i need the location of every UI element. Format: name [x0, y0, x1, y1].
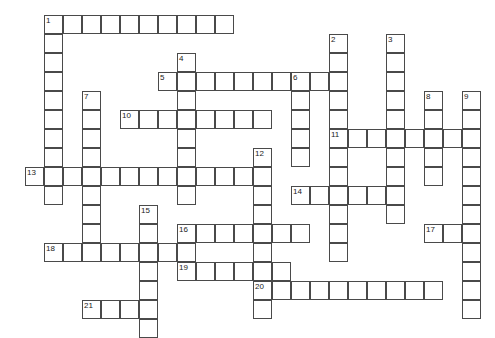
crossword-cell[interactable] — [234, 224, 253, 243]
crossword-cell[interactable] — [44, 148, 63, 167]
crossword-cell[interactable] — [329, 186, 348, 205]
crossword-cell[interactable] — [158, 110, 177, 129]
crossword-cell[interactable] — [82, 205, 101, 224]
crossword-cell[interactable] — [386, 34, 405, 53]
crossword-cell[interactable] — [215, 15, 234, 34]
crossword-cell[interactable] — [462, 148, 481, 167]
crossword-cell[interactable] — [424, 167, 443, 186]
crossword-cell[interactable] — [44, 167, 63, 186]
crossword-cell[interactable] — [120, 167, 139, 186]
crossword-cell[interactable] — [443, 224, 462, 243]
crossword-cell[interactable] — [386, 281, 405, 300]
crossword-cell[interactable] — [424, 148, 443, 167]
crossword-cell[interactable] — [291, 91, 310, 110]
crossword-cell[interactable] — [253, 281, 272, 300]
crossword-cell[interactable] — [234, 167, 253, 186]
crossword-cell[interactable] — [44, 186, 63, 205]
crossword-cell[interactable] — [82, 186, 101, 205]
crossword-cell[interactable] — [253, 224, 272, 243]
crossword-cell[interactable] — [462, 205, 481, 224]
crossword-cell[interactable] — [177, 262, 196, 281]
crossword-cell[interactable] — [424, 129, 443, 148]
crossword-cell[interactable] — [177, 15, 196, 34]
crossword-cell[interactable] — [462, 129, 481, 148]
crossword-cell[interactable] — [44, 243, 63, 262]
crossword-cell[interactable] — [215, 110, 234, 129]
crossword-cell[interactable] — [44, 72, 63, 91]
crossword-cell[interactable] — [234, 262, 253, 281]
crossword-cell[interactable] — [253, 186, 272, 205]
crossword-cell[interactable] — [386, 91, 405, 110]
crossword-cell[interactable] — [386, 72, 405, 91]
crossword-cell[interactable] — [462, 224, 481, 243]
crossword-cell[interactable] — [291, 72, 310, 91]
crossword-cell[interactable] — [177, 186, 196, 205]
crossword-cell[interactable] — [158, 243, 177, 262]
crossword-cell[interactable] — [44, 129, 63, 148]
crossword-cell[interactable] — [310, 281, 329, 300]
crossword-cell[interactable] — [329, 53, 348, 72]
crossword-cell[interactable] — [158, 167, 177, 186]
crossword-cell[interactable] — [120, 300, 139, 319]
crossword-cell[interactable] — [101, 243, 120, 262]
crossword-cell[interactable] — [139, 205, 158, 224]
crossword-cell[interactable] — [272, 72, 291, 91]
crossword-cell[interactable] — [196, 224, 215, 243]
crossword-cell[interactable] — [462, 186, 481, 205]
crossword-cell[interactable] — [101, 15, 120, 34]
crossword-cell[interactable] — [215, 167, 234, 186]
crossword-cell[interactable] — [253, 262, 272, 281]
crossword-cell[interactable] — [82, 300, 101, 319]
crossword-cell[interactable] — [196, 15, 215, 34]
crossword-cell[interactable] — [329, 224, 348, 243]
crossword-cell[interactable] — [405, 281, 424, 300]
crossword-cell[interactable] — [424, 281, 443, 300]
crossword-cell[interactable] — [44, 15, 63, 34]
crossword-cell[interactable] — [424, 224, 443, 243]
crossword-cell[interactable] — [82, 243, 101, 262]
crossword-cell[interactable] — [443, 129, 462, 148]
crossword-cell[interactable] — [158, 15, 177, 34]
crossword-cell[interactable] — [386, 186, 405, 205]
crossword-cell[interactable] — [63, 243, 82, 262]
crossword-cell[interactable] — [139, 15, 158, 34]
crossword-cell[interactable] — [253, 167, 272, 186]
crossword-cell[interactable] — [272, 262, 291, 281]
crossword-cell[interactable] — [424, 91, 443, 110]
crossword-cell[interactable] — [253, 300, 272, 319]
crossword-cell[interactable] — [386, 205, 405, 224]
crossword-cell[interactable] — [177, 167, 196, 186]
crossword-cell[interactable] — [291, 129, 310, 148]
crossword-cell[interactable] — [139, 262, 158, 281]
crossword-cell[interactable] — [120, 243, 139, 262]
crossword-cell[interactable] — [386, 53, 405, 72]
crossword-cell[interactable] — [82, 167, 101, 186]
crossword-cell[interactable] — [329, 148, 348, 167]
crossword-cell[interactable] — [82, 91, 101, 110]
crossword-cell[interactable] — [462, 110, 481, 129]
crossword-cell[interactable] — [82, 148, 101, 167]
crossword-cell[interactable] — [215, 224, 234, 243]
crossword-cell[interactable] — [329, 91, 348, 110]
crossword-cell[interactable] — [63, 167, 82, 186]
crossword-cell[interactable] — [139, 281, 158, 300]
crossword-cell[interactable] — [82, 15, 101, 34]
crossword-cell[interactable] — [196, 167, 215, 186]
crossword-cell[interactable] — [215, 262, 234, 281]
crossword-cell[interactable] — [329, 243, 348, 262]
crossword-cell[interactable] — [44, 53, 63, 72]
crossword-cell[interactable] — [348, 129, 367, 148]
crossword-cell[interactable] — [329, 281, 348, 300]
crossword-cell[interactable] — [139, 224, 158, 243]
crossword-cell[interactable] — [196, 110, 215, 129]
crossword-cell[interactable] — [120, 15, 139, 34]
crossword-cell[interactable] — [158, 72, 177, 91]
crossword-cell[interactable] — [177, 72, 196, 91]
crossword-cell[interactable] — [462, 243, 481, 262]
crossword-cell[interactable] — [139, 110, 158, 129]
crossword-cell[interactable] — [329, 34, 348, 53]
crossword-cell[interactable] — [253, 243, 272, 262]
crossword-cell[interactable] — [424, 110, 443, 129]
crossword-cell[interactable] — [386, 110, 405, 129]
